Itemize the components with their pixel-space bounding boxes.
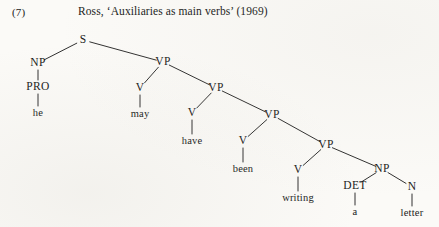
node-v3: V [239, 135, 248, 147]
tree-edge-s-np1 [44, 43, 77, 60]
tree-edge-vp1-v1 [145, 67, 159, 83]
node-s: S [80, 34, 87, 46]
node-det: DET [343, 180, 366, 192]
node-np1: NP [30, 57, 45, 69]
terminal-writing: writing [282, 193, 314, 204]
node-vp4: VP [318, 139, 333, 151]
terminal-a: a [353, 207, 358, 218]
tree-edge-vp1-vp2 [169, 65, 209, 85]
tree-edge-vp2-v2 [197, 93, 211, 108]
tree-edge-vp2-vp3 [222, 91, 265, 112]
terminal-have: have [182, 136, 203, 147]
terminal-he: he [33, 108, 43, 119]
tree-edge-s-vp1 [90, 42, 157, 60]
figure-page: (7) Ross, ‘Auxiliaries as main verbs’ (1… [0, 0, 439, 227]
tree-edge-vp3-v3 [248, 120, 267, 137]
node-n: N [408, 181, 417, 193]
node-pro: PRO [26, 81, 49, 93]
tree-edge-vp4-np2 [332, 148, 375, 166]
tree-edge-vp3-vp4 [278, 118, 320, 141]
tree-edge-np2-n [388, 173, 406, 184]
node-v2: V [188, 107, 197, 119]
terminal-letter: letter [401, 208, 424, 219]
node-vp1: VP [155, 56, 170, 68]
node-np2: NP [374, 163, 389, 175]
terminal-been: been [233, 164, 254, 175]
tree-edge-vp4-v4 [303, 150, 321, 166]
node-v1: V [136, 82, 145, 94]
node-vp2: VP [208, 82, 223, 94]
syntax-tree-edges [0, 0, 439, 227]
node-v4: V [294, 164, 303, 176]
terminal-may: may [131, 109, 150, 120]
node-vp3: VP [264, 109, 279, 121]
